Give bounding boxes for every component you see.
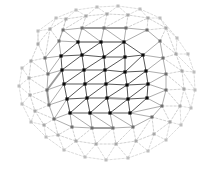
mesh-node	[47, 73, 50, 76]
mesh-canvas	[0, 0, 218, 186]
mesh-node	[165, 27, 168, 30]
mesh-node	[179, 105, 182, 108]
mesh-node	[62, 29, 65, 32]
mesh-node	[190, 107, 193, 110]
mesh-node	[169, 121, 172, 124]
mesh-node	[135, 140, 138, 143]
mesh-node	[144, 69, 147, 72]
mesh-node	[141, 53, 144, 56]
mesh-node	[49, 28, 52, 31]
mesh-node	[125, 83, 128, 86]
mesh-node	[57, 134, 60, 137]
mesh-node	[123, 70, 126, 73]
mesh-node	[127, 14, 130, 17]
mesh-node	[30, 60, 33, 63]
mesh-node	[112, 127, 115, 130]
mesh-node	[34, 110, 37, 113]
mesh-node	[127, 157, 130, 160]
mesh-node	[18, 85, 21, 88]
mesh-node	[105, 96, 108, 99]
mesh-node	[139, 8, 142, 11]
mesh-node	[84, 156, 87, 159]
mesh-node	[30, 121, 33, 124]
mesh-node	[53, 118, 56, 121]
mesh-node	[60, 68, 63, 71]
mesh-node	[75, 140, 78, 143]
mesh-node	[106, 13, 109, 16]
mesh-node	[46, 89, 49, 92]
mesh-node	[108, 111, 111, 114]
mesh-node	[99, 40, 102, 43]
mesh-node	[128, 111, 131, 114]
mesh-node	[146, 82, 149, 85]
mesh-node	[115, 143, 118, 146]
mesh-node	[68, 111, 71, 114]
mesh-node	[117, 5, 120, 8]
mesh-node	[102, 55, 105, 58]
mesh-node	[145, 96, 148, 99]
mesh-node	[146, 29, 149, 32]
mesh-node	[193, 71, 196, 74]
mesh-node	[55, 17, 58, 20]
mesh-node	[153, 133, 156, 136]
mesh-node	[159, 40, 162, 43]
mesh-node	[103, 27, 106, 30]
mesh-node	[83, 82, 86, 85]
mesh-node	[104, 82, 107, 85]
mesh-node	[165, 139, 168, 142]
mesh-node	[95, 143, 98, 146]
mesh-node	[44, 57, 47, 60]
mesh-node	[43, 124, 46, 127]
mesh-node	[45, 136, 48, 139]
mesh-node	[162, 57, 165, 60]
mesh-node	[175, 53, 178, 56]
mesh-edge	[107, 98, 128, 99]
mesh-node	[85, 15, 88, 18]
mesh-node	[103, 68, 106, 71]
mesh-node	[28, 77, 31, 80]
mesh-node	[65, 97, 68, 100]
mesh-node	[151, 116, 154, 119]
mesh-node	[91, 127, 94, 130]
mesh-node	[159, 17, 162, 20]
mesh-node	[88, 111, 91, 114]
mesh-node	[181, 70, 184, 73]
mesh-node	[37, 43, 40, 46]
mesh-node	[21, 103, 24, 106]
mesh-node	[123, 55, 126, 58]
mesh-node	[147, 150, 150, 153]
mesh-node	[71, 126, 74, 129]
mesh-node	[183, 88, 186, 91]
mesh-node	[62, 82, 65, 85]
mesh-node	[132, 126, 135, 129]
mesh-node	[63, 149, 66, 152]
mesh-node	[59, 54, 62, 57]
mesh-node	[29, 94, 32, 97]
mesh-node	[161, 105, 164, 108]
mesh-node	[75, 9, 78, 12]
mesh-node	[76, 40, 79, 43]
mesh-figure	[0, 0, 218, 186]
mesh-node	[96, 6, 99, 9]
mesh-node	[147, 17, 150, 20]
mesh-node	[21, 67, 24, 70]
mesh-node	[85, 96, 88, 99]
mesh-node	[187, 53, 190, 56]
mesh-node	[82, 68, 85, 71]
mesh-node	[165, 73, 168, 76]
mesh-node	[37, 30, 40, 33]
mesh-node	[176, 37, 179, 40]
mesh-node	[48, 104, 51, 107]
mesh-node	[80, 53, 83, 56]
mesh-node	[105, 159, 108, 162]
mesh-node	[65, 18, 68, 21]
mesh-node	[194, 89, 197, 92]
mesh-node	[165, 89, 168, 92]
mesh-node	[125, 27, 128, 30]
mesh-node	[122, 40, 125, 43]
mesh-node	[81, 27, 84, 30]
mesh-node	[180, 124, 183, 127]
mesh-node	[58, 40, 61, 43]
mesh-node	[126, 97, 129, 100]
